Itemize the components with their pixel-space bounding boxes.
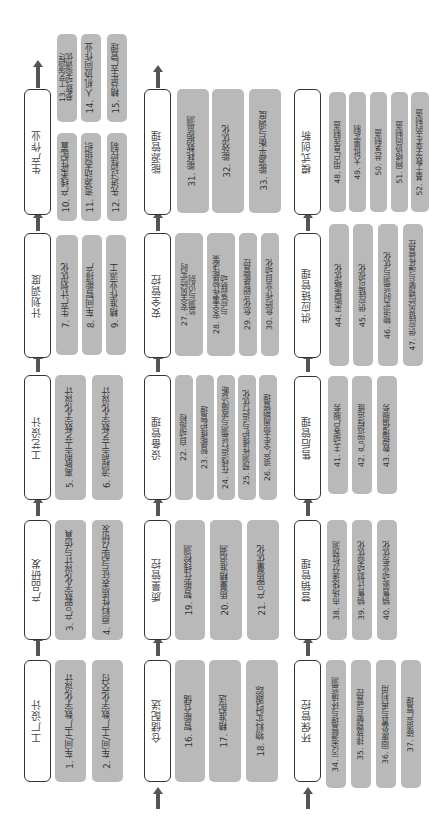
item-9: 9. 精准作业派工 [106,235,126,355]
item-38: 38. 市场快速分析预测 [327,520,347,640]
item-49: 49. 大批量定制 [349,92,366,212]
item-17: 17. 精准配送 [209,660,241,782]
stage-title: 计划调度 [32,274,43,318]
flow-arrow-icon [36,217,40,231]
item-30: 30. 危险作业自动化 [261,233,279,356]
item-5: 5. 离散型工艺数字化设计 [55,375,86,500]
item-19: 19. 智能在线检测 [175,520,205,640]
item-36: 36. 固废处置与再利用 [376,660,396,788]
item-43: 43. 数据增值服务 [377,376,397,494]
stage-title: 质量管控 [152,558,163,602]
stage-header-product-rd: 产品研发 [24,520,51,640]
stage-header-warehousing-delivery: 仓储配送 [144,660,171,782]
stage-title: 工厂设计 [32,699,43,743]
stage-title: 供应链管理 [302,268,313,323]
item-23: 23. 智能维护管理 [196,375,214,500]
stage-header-environmental-control: 环保管控 [294,660,321,782]
flow-arrow-icon [306,502,310,516]
flow-arrow-icon [306,793,310,809]
stage-header-production-operation: 生产作业 [24,89,51,215]
stage-title: 售后管理 [302,416,313,460]
item-51: 51. 网络协同制造 [391,92,408,212]
stage-title: 营销管理 [302,558,313,602]
stage-title: 能源管理 [152,130,163,174]
stage-title: 仓储配送 [152,699,163,743]
flow-arrow-icon [36,66,40,88]
stage-header-after-sales-management: 售后管理 [294,376,321,500]
flow-arrow-icon [156,71,160,88]
flow-arrow-icon [36,640,40,656]
item-45: 45. 供应链可视化 [353,224,373,366]
flow-arrow-icon [36,358,40,372]
item-16: 16. 智能仓储 [175,660,205,782]
item-47: 47. 供应链风险预警与弹性管控 [403,224,423,366]
stage-header-factory-design: 工厂设计 [24,660,51,782]
item-21: 21. 产品质量优化 [247,520,279,640]
flow-arrow-icon [156,358,160,372]
item-26: 26. 资产全生命周期管理 [259,375,277,500]
flow-arrow-icon [306,358,310,372]
item-11: 11. 资源动态组织 [81,133,101,221]
item-6: 6. 流程型工艺数字化设计 [92,375,123,500]
stage-header-marketing-management: 营销管理 [294,520,321,640]
item-2: 2. 车间/工厂数字化交付 [92,660,123,782]
item-37: 37. 碳资产管理 [401,660,421,788]
stage-header-equipment-management: 设备管理 [144,375,171,500]
item-28: 28. 安全事件智能决策 与应急联动 [207,233,235,356]
item-42: 42. 产品远程运维 [352,376,372,494]
item-7: 7. 生产计划优化 [56,235,78,355]
item-4: 4. 原料性质表征与配方研发 [92,520,123,640]
item-8: 8. 车间智能排产 [82,235,102,355]
item-25: 25. 预测性维护与运行优化 [238,375,256,500]
item-27: 27. 安全风险实时 监测与识别 [175,233,203,356]
item-40: 40. 销售驱动业务优化 [377,520,397,640]
stage-title: 生产作业 [32,130,43,174]
flow-arrow-icon [156,502,160,516]
stage-header-energy-management: 能源管理 [144,89,171,215]
stage-header-planning-scheduling: 计划调度 [24,233,51,358]
stage-header-model-innovation: 模式创新 [294,89,321,215]
item-3: 3. 产品数字化设计与仿真 [55,520,86,640]
item-29: 29. 危化品智能管控 [239,233,257,356]
item-24: 24. 在线运行监测与故障诊断 [217,375,235,500]
item-18: 18. 物料实时跟踪 [246,660,278,782]
item-44: 44. 采购策略优化 [329,224,349,366]
item-39: 39. 销售计划动态优化 [352,520,372,640]
item-41: 41. 主动客户服务 [328,376,348,494]
stage-header-quality-control: 质量管控 [144,520,171,640]
stage-header-supply-chain-management: 供应链管理 [294,233,321,358]
item-14: 14. 人机协同作业 [81,34,101,122]
item-20: 20. 质量精准追溯 [210,520,242,640]
stage-title: 模式创新 [302,130,313,174]
item-34: 34. 污染源管理与环境监测 [326,660,346,788]
item-22: 22. 自动巡检 [175,375,193,500]
flow-arrow-icon [306,642,310,656]
item-31: 31. 能耗数据监测 [177,89,209,213]
item-46: 46. 物流实时监测与优化 [378,224,398,366]
stage-header-safety-control: 安全管控 [144,233,171,358]
stage-header-process-design: 工艺设计 [24,375,51,500]
flow-arrow-icon [156,217,160,231]
stage-title: 工艺设计 [32,416,43,460]
flow-arrow-icon [36,502,40,516]
flow-arrow-icon [156,642,160,656]
item-52: 52. 基于数字孪生的制造 [411,92,429,212]
item-12: 12. 先进过程控制 [107,133,127,221]
item-35: 35. 排放预警与管控 [351,660,371,788]
stage-title: 安全管控 [152,274,163,318]
item-32: 32. 能效优化 [212,89,244,213]
item-50: 50. 共享制造 [370,92,387,212]
stage-title: 设备管理 [152,416,163,460]
item-10: 10. 产线柔性配置 [57,133,77,221]
item-1: 1. 车间/工厂数字化设计 [55,660,86,782]
item-15: 15. 精益生产管理 [107,34,127,122]
flow-arrow-icon [156,793,160,809]
flow-arrow-icon [306,217,310,231]
item-48: 48. 用户直连制造 [329,92,346,212]
item-13: 13. 工艺流程/ 参数动态调优 [57,34,77,122]
item-33: 33. 能源平衡与调度 [249,89,281,213]
stage-title: 环保管控 [302,699,313,743]
stage-title: 产品研发 [32,558,43,602]
